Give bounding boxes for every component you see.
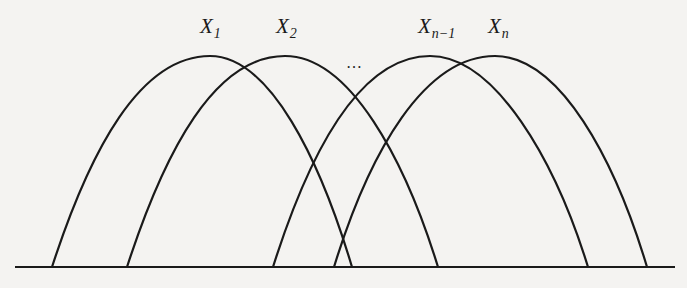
ellipsis: … [346, 54, 363, 72]
label-xn-1: Xn−1 [418, 14, 455, 42]
label-x2: X2 [276, 14, 297, 42]
label-xn: Xn [488, 14, 509, 42]
curve-x1 [52, 56, 352, 267]
diagram-canvas [0, 0, 687, 288]
curve-xn [334, 56, 647, 267]
label-x1: X1 [200, 14, 221, 42]
curve-xn-1 [273, 56, 588, 267]
